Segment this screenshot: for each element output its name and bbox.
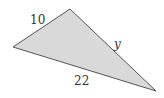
triangle-diagram: 10 y 22: [0, 0, 164, 98]
side-label-10: 10: [30, 13, 45, 27]
side-label-y: y: [113, 37, 121, 51]
side-label-22: 22: [74, 74, 89, 88]
